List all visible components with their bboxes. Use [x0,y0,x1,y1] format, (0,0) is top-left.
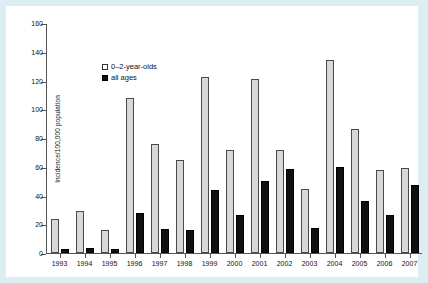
bar [76,211,84,253]
bar [401,168,409,253]
legend-item: all ages [102,72,157,83]
bar-group [72,24,97,253]
x-tick-label: 2006 [372,259,397,268]
bar [301,189,309,253]
bar-group [197,24,222,253]
bar [386,215,394,253]
x-tick-mark [135,254,136,258]
bar [361,201,369,253]
x-tick-mark [360,254,361,258]
x-tick: 2005 [347,254,372,270]
bar [186,230,194,253]
x-tick-label: 1995 [97,259,122,268]
bar-group [272,24,297,253]
x-tick-label: 1997 [147,259,172,268]
bar [126,98,134,253]
y-tick-label: 120 [31,76,43,87]
bar-groups [47,24,422,253]
legend-label: 0–2-year-olds [111,61,157,72]
x-tick-label: 1998 [172,259,197,268]
x-tick: 1994 [72,254,97,270]
y-tick-label: 20 [35,219,43,230]
x-tick-mark [285,254,286,258]
legend-label: all ages [111,72,137,83]
x-tick-label: 2001 [247,259,272,268]
x-tick: 2007 [397,254,422,270]
chart-legend: 0–2-year-oldsall ages [102,61,157,83]
bar [211,190,219,253]
x-tick: 1996 [122,254,147,270]
x-tick-label: 2005 [347,259,372,268]
bar [251,79,259,253]
x-tick-label: 2004 [322,259,347,268]
bar-group [347,24,372,253]
bar-group [172,24,197,253]
plot-area: Incidence/100,000 population 02040608010… [46,24,422,254]
x-tick-mark [385,254,386,258]
y-tick-label: 0 [39,248,43,259]
x-tick-label: 2003 [297,259,322,268]
bar [376,170,384,253]
legend-swatch-icon [102,64,108,70]
y-tick-label: 160 [31,18,43,29]
bar [336,167,344,253]
x-tick-mark [260,254,261,258]
bar-group [122,24,147,253]
bar-group [47,24,72,253]
y-tick-label: 100 [31,104,43,115]
x-tick: 2002 [272,254,297,270]
x-tick-mark [60,254,61,258]
bar [286,169,294,253]
bar [226,150,234,253]
y-tick-label: 140 [31,47,43,58]
x-tick: 2003 [297,254,322,270]
bar [61,249,69,253]
x-tick: 1998 [172,254,197,270]
bar [261,181,269,253]
bar-group [222,24,247,253]
bar [136,213,144,253]
bar-group [397,24,422,253]
x-tick: 2006 [372,254,397,270]
x-tick-mark [210,254,211,258]
bar [311,228,319,253]
bar-group [147,24,172,253]
bar [351,129,359,253]
x-tick-label: 1994 [72,259,97,268]
x-tick-label: 2007 [397,259,422,268]
chart-canvas: Incidence/100,000 population 02040608010… [6,6,418,277]
bar [161,229,169,253]
y-tick-label: 60 [35,162,43,173]
y-tick-label: 80 [35,133,43,144]
x-tick-mark [235,254,236,258]
x-tick-label: 1999 [197,259,222,268]
bar [276,150,284,253]
x-tick: 1997 [147,254,172,270]
legend-item: 0–2-year-olds [102,61,157,72]
x-tick: 2000 [222,254,247,270]
x-tick-label: 2000 [222,259,247,268]
bar [236,215,244,253]
bar [326,60,334,253]
bar [411,185,419,253]
x-tick-label: 1993 [47,259,72,268]
bar [176,160,184,253]
x-tick-label: 1996 [122,259,147,268]
x-tick-label: 2002 [272,259,297,268]
bar-group [247,24,272,253]
x-tick: 1995 [97,254,122,270]
x-tick-mark [85,254,86,258]
bar [86,248,94,253]
bar-group [297,24,322,253]
bar-group [97,24,122,253]
x-tick: 2001 [247,254,272,270]
bar-group [372,24,397,253]
bar [51,219,59,254]
x-tick-mark [310,254,311,258]
bar [151,144,159,253]
x-tick: 2004 [322,254,347,270]
bar [201,77,209,253]
bar [101,230,109,253]
x-tick-mark [160,254,161,258]
figure-container: Incidence/100,000 population 02040608010… [0,0,428,283]
